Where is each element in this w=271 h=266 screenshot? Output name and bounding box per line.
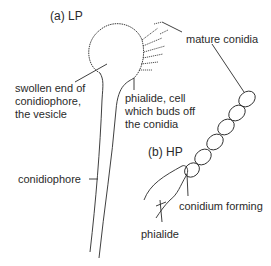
conidiophore-left	[90, 73, 103, 252]
leader-mature-conidia-b	[212, 44, 244, 92]
leader-mature-conidia	[162, 22, 182, 32]
phialide-label: phialide	[141, 228, 179, 240]
hp-conidium-forming-leader	[187, 174, 188, 196]
phialide-cell-label: phialide, cell which buds off the conidi…	[125, 92, 195, 131]
hp-phialide-cross	[156, 202, 166, 206]
conidium-forming-label: conidium forming	[179, 200, 263, 212]
part-a-label: (a) LP	[50, 10, 83, 22]
vesicle-label: swollen end of conidiophore, the vesicle	[15, 82, 85, 121]
conidiophore-label: conidiophore	[18, 173, 81, 185]
phialides-rays	[139, 22, 168, 70]
part-b-label: (b) HP	[148, 146, 183, 158]
mature-conidia-label: mature conidia	[186, 33, 258, 45]
